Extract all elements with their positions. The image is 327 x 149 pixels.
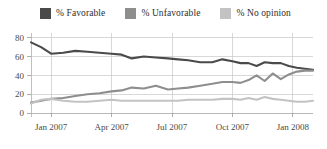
legend-swatch-no-opinion	[220, 8, 231, 19]
plot-area: 020406080 Jan 2007Apr 2007Jul 2007Oct 20…	[0, 26, 327, 149]
x-tick-label: Jan 2007	[35, 122, 68, 132]
legend-swatch-favorable	[40, 8, 51, 19]
plot-svg: 020406080 Jan 2007Apr 2007Jul 2007Oct 20…	[0, 26, 327, 149]
legend-item-unfavorable[interactable]: % Unfavorable	[125, 8, 200, 19]
legend-label-unfavorable: % Unfavorable	[141, 8, 200, 19]
x-tick-label: Jan 2008	[277, 122, 310, 132]
legend-item-favorable[interactable]: % Favorable	[40, 8, 105, 19]
y-tick-label: 80	[15, 33, 25, 43]
legend-item-no-opinion[interactable]: % No opinion	[220, 8, 291, 19]
favorability-line-chart: % Favorable % Unfavorable % No opinion 0…	[0, 0, 327, 149]
y-axis-tick-labels: 020406080	[15, 33, 25, 118]
x-tick-label: Apr 2007	[94, 122, 129, 132]
legend-swatch-unfavorable	[125, 8, 136, 19]
y-tick-label: 40	[15, 71, 25, 81]
x-axis-tick-labels: Jan 2007Apr 2007Jul 2007Oct 2007Jan 2008	[35, 122, 309, 132]
y-tick-label: 0	[20, 108, 25, 118]
legend-label-no-opinion: % No opinion	[236, 8, 291, 19]
y-tick-label: 60	[15, 52, 25, 62]
chart-legend: % Favorable % Unfavorable % No opinion	[0, 0, 327, 26]
x-tick-label: Jul 2007	[157, 122, 188, 132]
x-tick-label: Oct 2007	[216, 122, 250, 132]
y-tick-label: 20	[15, 89, 25, 99]
legend-label-favorable: % Favorable	[56, 8, 105, 19]
